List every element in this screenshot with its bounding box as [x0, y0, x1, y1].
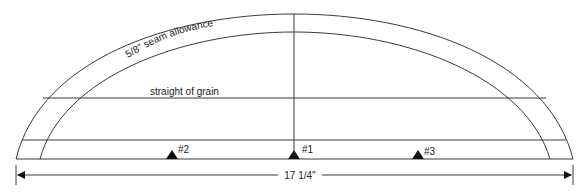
notch-label: #1	[302, 144, 314, 155]
seam-allowance-label: 5/8" seam allowance	[123, 17, 214, 60]
notch-1: #1	[288, 144, 314, 159]
pattern-diagram: 5/8" seam allowance straight of grain #2…	[0, 0, 588, 194]
width-label: 17 1/4"	[284, 170, 316, 181]
notch-label: #3	[424, 146, 436, 157]
triangle-marker-icon	[412, 150, 424, 159]
triangle-marker-icon	[166, 150, 178, 159]
grain-label: straight of grain	[150, 86, 219, 97]
arrow-left-icon	[17, 171, 25, 179]
width-dimension: 17 1/4"	[16, 165, 573, 185]
notch-2: #2	[166, 144, 190, 159]
arrow-right-icon	[564, 171, 572, 179]
triangle-marker-icon	[288, 150, 300, 159]
notch-label: #2	[178, 144, 190, 155]
notch-3: #3	[412, 146, 436, 159]
